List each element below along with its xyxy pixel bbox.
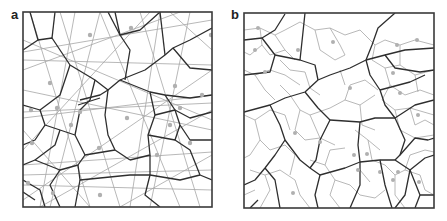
panel-a: a: [0, 0, 222, 221]
panel-b: b: [222, 0, 447, 221]
tessellation-b: [222, 0, 447, 221]
seed-points-a: [26, 26, 213, 197]
dark-edges-b: [244, 13, 434, 208]
gray-lines-a: [23, 12, 212, 207]
tessellation-a: [0, 0, 222, 221]
